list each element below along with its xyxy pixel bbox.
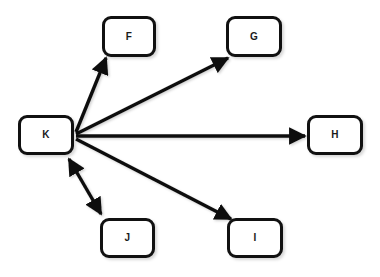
node-f[interactable]: F [102, 16, 156, 57]
edge-k-to-i [76, 139, 231, 219]
node-i-label: I [254, 233, 257, 243]
node-g[interactable]: G [226, 16, 282, 57]
node-k[interactable]: K [18, 115, 74, 155]
edge-k-to-j-bidirectional [69, 159, 101, 214]
node-f-label: F [126, 32, 132, 42]
node-g-label: G [250, 32, 258, 42]
node-j-label: J [125, 233, 131, 243]
node-k-label: K [42, 130, 49, 140]
edge-k-to-g [76, 58, 228, 134]
node-i[interactable]: I [227, 218, 283, 258]
node-h[interactable]: H [307, 115, 363, 155]
node-j[interactable]: J [100, 218, 155, 258]
diagram-canvas: K F G H I J [0, 0, 380, 277]
node-h-label: H [331, 130, 338, 140]
